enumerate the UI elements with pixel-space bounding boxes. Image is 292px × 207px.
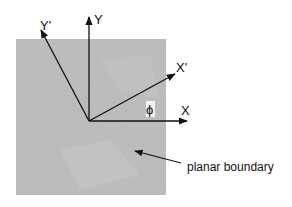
angle-phi-label: ϕ: [146, 102, 153, 117]
planar-boundary-region: [16, 39, 166, 195]
y-prime-axis-label: Y': [40, 18, 51, 33]
x-prime-axis-label: X': [176, 60, 187, 75]
rotated-axes-diagram: Y Y' X X' ϕ planar boundary: [0, 0, 292, 207]
y-axis-label: Y: [94, 12, 103, 27]
x-axis-label: X: [181, 103, 190, 118]
planar-boundary-label: planar boundary: [187, 160, 274, 174]
